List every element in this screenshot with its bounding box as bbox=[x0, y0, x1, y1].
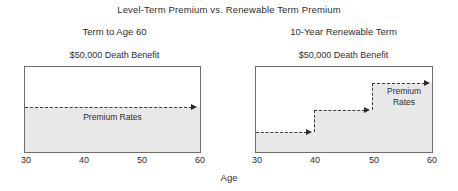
premium-rates-label-left: Premium Rates bbox=[25, 112, 200, 123]
premium-shade-step-1 bbox=[256, 132, 314, 152]
panel-subtitle-left: $50,000 Death Benefit bbox=[0, 50, 229, 60]
arrow-head-icon-left bbox=[191, 104, 197, 110]
premium-step-line-3 bbox=[372, 83, 425, 84]
panel-title-right: 10-Year Renewable Term bbox=[229, 26, 458, 37]
x-tick-label-60-left: 60 bbox=[188, 155, 212, 165]
chart-panel-10-year-renewable-term: 10-Year Renewable Term $50,000 Death Ben… bbox=[229, 0, 458, 191]
x-tick-label-50-left: 50 bbox=[130, 155, 154, 165]
x-tick-label-30-left: 30 bbox=[14, 155, 38, 165]
chart-figure: Level-Term Premium vs. Renewable Term Pr… bbox=[0, 0, 458, 191]
premium-step-line-1 bbox=[256, 132, 307, 133]
x-tick-label-60-right: 60 bbox=[420, 155, 444, 165]
premium-line-left bbox=[25, 107, 192, 108]
plot-area-left: Premium Rates bbox=[24, 66, 201, 153]
premium-riser-age-40 bbox=[314, 110, 315, 132]
premium-shade-step-2 bbox=[314, 110, 372, 152]
premium-rates-label-line-1: Premium bbox=[376, 86, 432, 97]
premium-step-line-2 bbox=[314, 110, 365, 111]
arrow-head-icon-step-3 bbox=[424, 80, 430, 86]
arrow-head-icon-step-1 bbox=[306, 129, 312, 135]
premium-rates-label-line-2: Rates bbox=[376, 97, 432, 108]
panel-subtitle-right: $50,000 Death Benefit bbox=[229, 50, 458, 60]
x-axis-labels-left: 30 40 50 60 bbox=[0, 155, 229, 169]
plot-area-right: Premium Rates bbox=[255, 66, 433, 153]
x-axis-title: Age bbox=[0, 172, 458, 183]
x-axis-labels-right: 30 40 50 60 bbox=[229, 155, 458, 169]
arrow-head-icon-step-2 bbox=[364, 107, 370, 113]
panel-title-left: Term to Age 60 bbox=[0, 26, 229, 37]
chart-panel-term-to-age-60: Term to Age 60 $50,000 Death Benefit Pre… bbox=[0, 0, 229, 191]
premium-rates-label-right: Premium Rates bbox=[376, 86, 432, 108]
x-tick-label-50-right: 50 bbox=[362, 155, 386, 165]
x-tick-label-30-right: 30 bbox=[245, 155, 269, 165]
x-tick-label-40-left: 40 bbox=[72, 155, 96, 165]
x-tick-label-40-right: 40 bbox=[303, 155, 327, 165]
premium-riser-age-50 bbox=[372, 83, 373, 110]
